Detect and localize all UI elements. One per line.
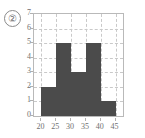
bar bbox=[71, 72, 86, 116]
x-axis-tick-mark bbox=[115, 118, 116, 121]
y-axis-tick-label: 6 bbox=[3, 24, 31, 32]
bars-group bbox=[34, 14, 123, 116]
y-axis-tick-label: 0 bbox=[3, 111, 31, 119]
y-axis-tick-label: 4 bbox=[3, 53, 31, 61]
bar bbox=[101, 101, 116, 116]
x-axis-tick-label: 45 bbox=[105, 123, 125, 131]
y-axis-tick-label: 3 bbox=[3, 67, 31, 75]
y-axis-tick-label: 2 bbox=[3, 82, 31, 90]
histogram-figure: ② 01234567 202530354045 bbox=[0, 0, 145, 138]
bar bbox=[86, 43, 101, 116]
x-axis-tick-mark bbox=[100, 118, 101, 121]
x-axis-tick-mark bbox=[70, 118, 71, 121]
y-axis-tick-label: 1 bbox=[3, 96, 31, 104]
x-axis-tick-mark bbox=[40, 118, 41, 121]
bar bbox=[56, 43, 71, 116]
y-axis-tick-label: 7 bbox=[3, 9, 31, 17]
x-axis-tick-mark bbox=[85, 118, 86, 121]
y-axis: 01234567 bbox=[0, 13, 31, 117]
bar bbox=[41, 87, 56, 116]
plot-area bbox=[33, 13, 124, 117]
y-axis-tick-label: 5 bbox=[3, 38, 31, 46]
x-axis-tick-mark bbox=[55, 118, 56, 121]
x-axis: 202530354045 bbox=[33, 118, 124, 136]
